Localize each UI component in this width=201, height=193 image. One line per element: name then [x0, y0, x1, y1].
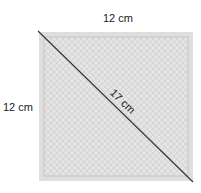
square-diagram: 17 cm — [0, 0, 201, 193]
